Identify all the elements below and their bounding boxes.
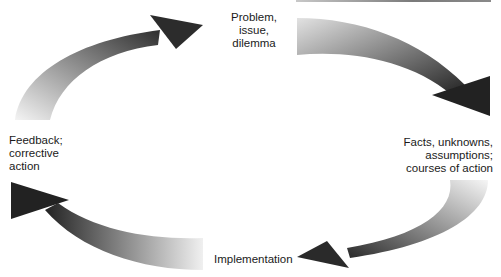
- node-feedback: Feedback; corrective action: [9, 134, 89, 173]
- arrow-problem-to-facts: [297, 18, 490, 116]
- node-implementation: Implementation: [214, 253, 293, 266]
- node-problem: Problem, issue, dilemma: [214, 11, 294, 50]
- arrow-feedback-to-problem: [15, 15, 203, 120]
- node-facts: Facts, unknowns, assumptions; courses of…: [353, 136, 493, 175]
- arrow-implementation-to-feedback: [11, 182, 203, 270]
- arrow-facts-to-implementation: [297, 180, 488, 268]
